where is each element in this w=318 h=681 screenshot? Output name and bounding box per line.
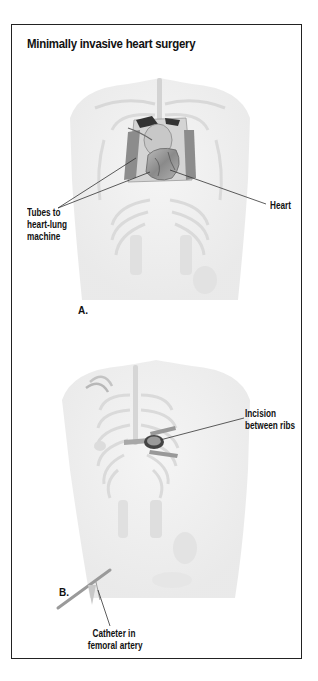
label-tubes-to-heart-lung-machine: Tubes to heart-lung machine <box>27 207 67 243</box>
label-line: between ribs <box>245 420 295 432</box>
label-line: heart-lung <box>27 219 67 231</box>
label-catheter-in-femoral-artery: Catheter in femoral artery <box>88 628 140 652</box>
panel-letter-b: B. <box>59 587 69 598</box>
label-line: machine <box>27 231 67 243</box>
torso-b <box>62 360 250 598</box>
anatomy-illustration <box>0 0 318 681</box>
label-line: Catheter in <box>88 628 140 640</box>
panel-letter-a: A. <box>78 305 88 316</box>
label-line: femoral artery <box>88 640 140 652</box>
heart-exposed-a <box>124 116 196 182</box>
label-line: Incision <box>245 408 295 420</box>
label-line: Tubes to <box>27 207 67 219</box>
label-heart: Heart <box>270 200 291 212</box>
label-incision-between-ribs: Incision between ribs <box>245 408 295 432</box>
